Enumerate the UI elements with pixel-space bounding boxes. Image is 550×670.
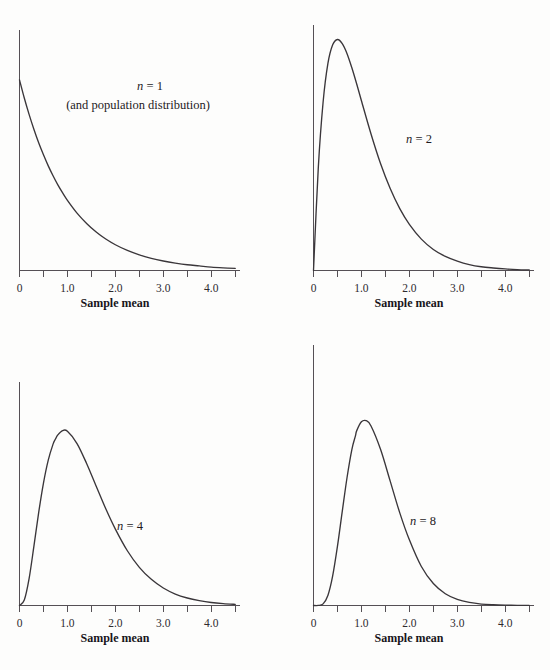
density-curve: [20, 430, 236, 606]
panel-n-8: 01.02.03.04.0 Sample mean n = 8: [275, 335, 550, 670]
sampling-distribution-figure: 01.02.03.04.0 Sample mean n = 1 (and pop…: [0, 0, 550, 670]
panel-n-1-axes: [20, 30, 241, 277]
panel-label-value: = 4: [123, 519, 143, 533]
x-tick-label: 3.0: [156, 617, 171, 629]
x-tick-label: 0: [311, 617, 317, 629]
density-curve: [314, 40, 530, 271]
panel-label-value: = 1: [143, 79, 163, 93]
x-tick-label: 3.0: [450, 617, 465, 629]
x-axis-title: Sample mean: [375, 296, 444, 310]
panel-sublabel: (and population distribution): [66, 98, 210, 112]
x-tick-label: 0: [17, 617, 23, 629]
x-tick-label: 4.0: [204, 617, 219, 629]
panel-n-8-plot: 01.02.03.04.0 Sample mean n = 8: [275, 335, 550, 670]
panel-n-2: 01.02.03.04.0 Sample mean n = 2: [275, 0, 550, 335]
x-axis-title: Sample mean: [81, 296, 150, 310]
x-tick-label: 4.0: [204, 282, 219, 294]
x-tick-label: 2.0: [108, 617, 123, 629]
x-axis-ticks: [20, 271, 236, 277]
x-tick-labels: 01.02.03.04.0: [17, 282, 219, 294]
x-tick-label: 2.0: [402, 617, 417, 629]
panel-n-4-axes: [20, 382, 241, 612]
panel-n-4: 01.02.03.04.0 Sample mean n = 4: [0, 335, 275, 670]
x-axis-title: Sample mean: [81, 631, 150, 645]
x-tick-label: 1.0: [354, 617, 369, 629]
x-tick-label: 3.0: [450, 282, 465, 294]
x-axis-ticks: [20, 606, 236, 612]
panel-n-1: 01.02.03.04.0 Sample mean n = 1 (and pop…: [0, 0, 275, 335]
x-axis-title: Sample mean: [375, 631, 444, 645]
panel-label-value: = 8: [416, 514, 436, 528]
x-axis-ticks: [314, 271, 530, 277]
x-tick-label: 0: [17, 282, 23, 294]
x-tick-label: 0: [311, 282, 317, 294]
panel-label: n = 1: [137, 79, 163, 93]
x-tick-labels: 01.02.03.04.0: [17, 617, 219, 629]
panel-label: n = 8: [410, 514, 436, 528]
panel-label: n = 4: [117, 519, 144, 533]
x-tick-label: 4.0: [498, 617, 513, 629]
x-tick-label: 4.0: [498, 282, 513, 294]
x-tick-label: 3.0: [156, 282, 171, 294]
x-axis-ticks: [314, 606, 530, 612]
panel-n-1-plot: 01.02.03.04.0 Sample mean n = 1 (and pop…: [0, 0, 275, 335]
density-curve: [314, 420, 530, 605]
panel-n-2-plot: 01.02.03.04.0 Sample mean n = 2: [275, 0, 550, 335]
panel-label-value: = 2: [412, 132, 432, 146]
x-tick-labels: 01.02.03.04.0: [311, 282, 513, 294]
x-tick-labels: 01.02.03.04.0: [311, 617, 513, 629]
panel-n-4-plot: 01.02.03.04.0 Sample mean n = 4: [0, 335, 275, 670]
x-tick-label: 1.0: [60, 617, 75, 629]
x-tick-label: 1.0: [354, 282, 369, 294]
x-tick-label: 2.0: [108, 282, 123, 294]
panel-label: n = 2: [406, 132, 432, 146]
panel-n-2-axes: [314, 25, 535, 277]
x-tick-label: 1.0: [60, 282, 75, 294]
x-tick-label: 2.0: [402, 282, 417, 294]
